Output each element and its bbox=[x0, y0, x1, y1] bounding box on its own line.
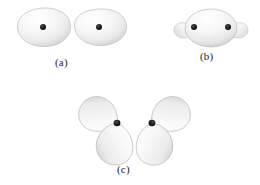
left-orbital-a bbox=[17, 8, 70, 47]
right-p-orbital-c bbox=[132, 90, 196, 168]
panel-c bbox=[73, 90, 196, 168]
panel-label-c: (c) bbox=[117, 163, 130, 175]
nucleus-dot bbox=[225, 24, 231, 30]
nucleus-dot bbox=[96, 24, 102, 30]
right-orbital-a bbox=[74, 9, 126, 46]
nucleus-dot bbox=[40, 24, 46, 30]
panel-b bbox=[174, 9, 248, 47]
panel-label-a: (a) bbox=[55, 56, 68, 68]
left-p-orbital-c bbox=[73, 90, 137, 168]
panel-a bbox=[17, 8, 126, 47]
bonding-lobe-b bbox=[185, 9, 237, 47]
panel-label-b: (b) bbox=[200, 50, 213, 62]
nucleus-dot bbox=[191, 24, 197, 30]
nucleus-dot bbox=[114, 120, 121, 126]
nucleus-dot bbox=[149, 120, 156, 126]
orbital-figure bbox=[0, 0, 260, 185]
